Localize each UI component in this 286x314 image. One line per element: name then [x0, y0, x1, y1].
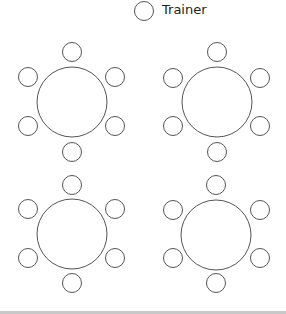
table-1	[37, 67, 107, 137]
trainer-legend-label: Trainer	[162, 2, 207, 17]
table-2-group	[164, 43, 270, 162]
table-3	[37, 199, 107, 269]
chair-right-upper	[251, 201, 270, 220]
chair-right-lower	[251, 117, 270, 136]
table-4	[181, 200, 251, 270]
chair-top	[63, 176, 82, 195]
chair-right-lower	[106, 117, 125, 136]
chair-right-lower	[106, 249, 125, 268]
chair-top	[63, 43, 82, 62]
chair-right-upper	[106, 200, 125, 219]
chair-left-upper	[19, 68, 38, 87]
trainer-legend-icon	[135, 2, 154, 21]
chair-left-lower	[19, 249, 38, 268]
chair-left-upper	[19, 200, 38, 219]
table-2	[182, 67, 252, 137]
chair-left-upper	[164, 69, 183, 88]
chair-right-upper	[106, 68, 125, 87]
table-1-group	[19, 43, 125, 162]
chair-top	[208, 43, 227, 62]
chair-left-lower	[164, 117, 183, 136]
chair-left-lower	[164, 249, 183, 268]
chair-bottom	[208, 143, 227, 162]
chair-bottom	[207, 274, 226, 293]
chair-bottom	[63, 143, 82, 162]
table-4-group	[164, 176, 270, 293]
chair-left-lower	[19, 117, 38, 136]
chair-left-upper	[164, 201, 183, 220]
chair-top	[207, 176, 226, 195]
chair-right-upper	[251, 69, 270, 88]
table-3-group	[19, 176, 125, 293]
chair-right-lower	[251, 249, 270, 268]
chair-bottom	[63, 274, 82, 293]
seating-diagram	[0, 0, 286, 314]
